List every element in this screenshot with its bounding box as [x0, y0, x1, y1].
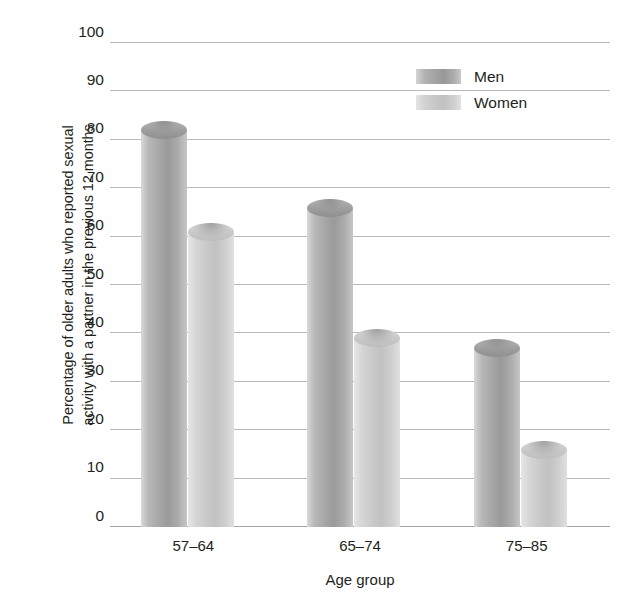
legend-swatch-women-icon: [416, 95, 461, 110]
bar-body: [521, 450, 567, 527]
bar-women-75-85: [521, 450, 567, 527]
y-tick-label-40: 40: [58, 314, 104, 330]
legend-item-women: Women: [416, 92, 527, 113]
y-tick-label-0: 0: [58, 508, 104, 524]
y-tick-label-20: 20: [58, 411, 104, 427]
x-axis-title: Age group: [110, 570, 610, 590]
x-tick-label-75-85: 75–85: [443, 536, 610, 556]
y-axis-tick-labels: 1009080706050403020100: [52, 43, 104, 527]
bar-women-65-74: [354, 338, 400, 527]
bar-group: [110, 43, 277, 527]
bar-cap-shading: [307, 199, 353, 217]
y-tick-label-70: 70: [58, 169, 104, 185]
x-tick-label-57-64: 57–64: [110, 536, 277, 556]
x-axis-tick-labels: 57–6465–7475–85: [110, 536, 610, 560]
y-tick-label-10: 10: [58, 459, 104, 475]
bar-cap-shading: [521, 441, 567, 459]
bar-men-65-74: [307, 208, 353, 527]
bar-men-75-85: [474, 348, 520, 527]
legend-swatch-men-icon: [416, 69, 461, 84]
y-tick-label-30: 30: [58, 362, 104, 378]
y-tick-label-100: 100: [58, 24, 104, 40]
bar-cap-shading: [141, 121, 187, 139]
legend-label-women: Women: [474, 95, 527, 111]
y-tick-label-90: 90: [58, 72, 104, 88]
legend-item-men: Men: [416, 66, 504, 87]
bar-body: [354, 338, 400, 527]
bar-chart: Percentage of older adults who reported …: [0, 0, 621, 605]
y-tick-label-80: 80: [58, 120, 104, 136]
bar-body: [188, 232, 234, 527]
bar-cap-shading: [474, 339, 520, 357]
x-tick-label-65-74: 65–74: [277, 536, 444, 556]
bar-body: [474, 348, 520, 527]
chart-legend: Men Women: [416, 66, 566, 118]
bar-men-57-64: [141, 130, 187, 527]
bar-cap-shading: [188, 223, 234, 241]
legend-label-men: Men: [474, 69, 504, 85]
y-tick-label-60: 60: [58, 217, 104, 233]
y-tick-label-50: 50: [58, 266, 104, 282]
bar-body: [307, 208, 353, 527]
bar-women-57-64: [188, 232, 234, 527]
bar-body: [141, 130, 187, 527]
